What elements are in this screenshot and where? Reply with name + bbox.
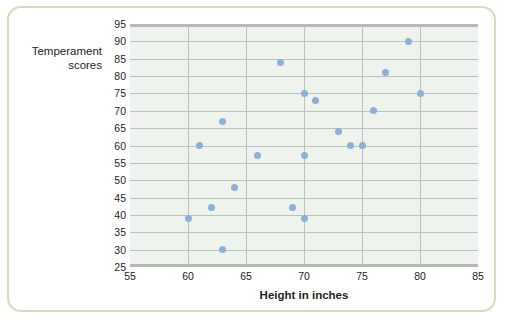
y-axis-tick-label: 30 [104,244,126,256]
gridline-vertical [188,24,189,267]
data-point [301,215,308,222]
y-axis-tick-label: 50 [104,174,126,186]
y-axis-label-line-2: scores [18,58,102,72]
x-axis-label: Height in inches [130,289,478,301]
data-point [301,90,308,97]
y-axis-tick-label: 60 [104,140,126,152]
data-point [417,90,424,97]
y-axis-tick-labels: 253035404550556065707580859095 [104,22,126,267]
x-axis-tick-label: 85 [472,270,484,282]
y-axis-tick-label: 45 [104,192,126,204]
x-axis-tick-label: 65 [240,270,252,282]
x-axis-tick-label: 60 [182,270,194,282]
data-point [196,142,203,149]
data-point [231,184,238,191]
data-point [370,107,377,114]
x-axis-tick-label: 55 [124,270,136,282]
data-point [405,38,412,45]
x-axis-tick-label: 75 [356,270,368,282]
y-axis-tick-label: 40 [104,209,126,221]
y-axis-tick-label: 85 [104,53,126,65]
y-axis-label: Temperament scores [18,44,102,72]
y-axis-tick-label: 95 [104,18,126,30]
scatter-plot-figure: Temperament scores 253035404550556065707… [0,0,506,322]
y-axis-tick-label: 25 [104,261,126,273]
gridline-vertical [246,24,247,267]
y-axis-tick-label: 55 [104,157,126,169]
data-point [312,97,319,104]
y-axis-label-line-1: Temperament [18,44,102,58]
plot-area [130,24,478,267]
y-axis-tick-label: 80 [104,70,126,82]
data-point [219,118,226,125]
data-point [254,152,261,159]
y-axis-tick-label: 35 [104,226,126,238]
data-point [382,69,389,76]
y-axis-tick-label: 65 [104,122,126,134]
data-point [277,59,284,66]
data-point [301,152,308,159]
data-point [208,204,215,211]
x-axis-tick-label: 70 [298,270,310,282]
data-point [289,204,296,211]
y-axis-tick-label: 90 [104,35,126,47]
y-axis-tick-label: 75 [104,87,126,99]
y-axis-tick-label: 70 [104,105,126,117]
gridline-vertical [304,24,305,267]
gridline-vertical [420,24,421,267]
data-point [185,215,192,222]
x-axis-tick-labels: 55606570758085 [130,270,478,286]
data-point [359,142,366,149]
data-point [219,246,226,253]
x-axis-tick-label: 80 [414,270,426,282]
data-point [347,142,354,149]
data-point [335,128,342,135]
